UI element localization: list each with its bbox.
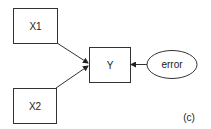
- edge-x1-to-y: [57, 43, 88, 63]
- node-x2-label: X2: [29, 101, 42, 112]
- path-diagram: X1 X2 Y error (c): [0, 0, 211, 129]
- node-x1: X1: [14, 9, 58, 44]
- node-error: error: [147, 51, 197, 79]
- node-x2: X2: [14, 89, 57, 124]
- node-error-label: error: [161, 59, 183, 70]
- node-y-label: Y: [107, 60, 114, 71]
- edge-x2-to-y: [56, 66, 88, 88]
- node-y: Y: [90, 48, 131, 83]
- node-x1-label: X1: [29, 21, 42, 32]
- panel-label: (c): [183, 112, 195, 123]
